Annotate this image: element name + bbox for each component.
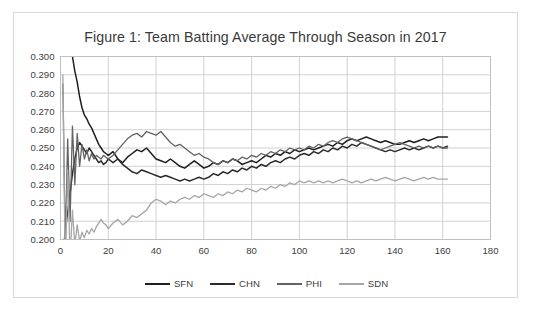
- gridlines: [61, 57, 491, 240]
- x-tick-label: 60: [198, 245, 209, 256]
- x-tick-label: 140: [387, 245, 403, 256]
- data-series-layer: [63, 0, 448, 272]
- y-tick-label: 0.270: [30, 106, 54, 117]
- y-tick-label: 0.210: [30, 216, 54, 227]
- y-tick-label: 0.260: [30, 124, 54, 135]
- x-tick-label: 160: [435, 245, 451, 256]
- x-tick-label: 0: [58, 245, 63, 256]
- x-tick-label: 20: [103, 245, 114, 256]
- series-line-chn: [63, 143, 448, 258]
- y-tick-label: 0.290: [30, 69, 54, 80]
- x-tick-label: 40: [151, 245, 162, 256]
- series-line-sdn: [63, 75, 448, 273]
- y-tick-label: 0.200: [30, 234, 54, 245]
- y-tick-label: 0.280: [30, 88, 54, 99]
- y-tick-label: 0.250: [30, 142, 54, 153]
- x-axis-tick-labels: 020406080100120140160180: [58, 245, 499, 256]
- series-line-sfn: [63, 0, 448, 168]
- x-tick-label: 180: [482, 245, 498, 256]
- x-tick-label: 80: [246, 245, 257, 256]
- y-tick-label: 0.220: [30, 197, 54, 208]
- y-tick-label: 0.230: [30, 179, 54, 190]
- plot-area-wrapper: 0.2000.2100.2200.2300.2400.2500.2600.270…: [0, 0, 538, 313]
- x-tick-label: 100: [291, 245, 307, 256]
- y-tick-label: 0.300: [30, 51, 54, 62]
- y-axis-tick-labels: 0.2000.2100.2200.2300.2400.2500.2600.270…: [30, 51, 54, 245]
- y-tick-label: 0.240: [30, 161, 54, 172]
- line-chart: 0.2000.2100.2200.2300.2400.2500.2600.270…: [0, 0, 538, 313]
- x-tick-label: 120: [339, 245, 355, 256]
